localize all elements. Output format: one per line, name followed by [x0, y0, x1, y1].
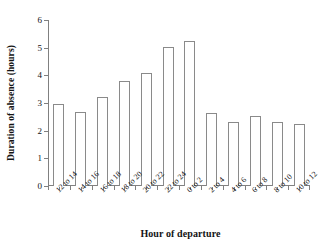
bar-series — [48, 20, 310, 186]
x-axis-title: Hour of departure — [0, 228, 325, 239]
bar — [272, 122, 283, 186]
bar — [53, 104, 64, 186]
y-axis-tick-label: 6 — [28, 15, 42, 25]
bar — [294, 124, 305, 186]
y-axis-tick-mark — [44, 20, 48, 21]
bar — [119, 81, 130, 186]
y-axis-tick-labels: 0123456 — [22, 0, 42, 248]
bar — [141, 73, 152, 186]
plot-area — [48, 20, 310, 186]
bar — [228, 122, 239, 186]
x-axis-tick-labels: 12 to 1414 to 1616 to 1818 to 2020 to 22… — [48, 188, 310, 228]
y-axis-tick-mark — [44, 75, 48, 76]
y-axis-tick-mark — [44, 48, 48, 49]
y-axis-tick-label: 1 — [28, 153, 42, 163]
y-axis-title: Duration of absence (hours) — [6, 45, 16, 161]
y-axis-tick-label: 4 — [28, 70, 42, 80]
y-axis-tick-label: 3 — [28, 98, 42, 108]
bar — [250, 116, 261, 186]
y-axis-tick-label: 2 — [28, 126, 42, 136]
bar — [163, 47, 174, 186]
y-axis-tick-mark — [44, 158, 48, 159]
bar — [206, 113, 217, 186]
y-axis-tick-label: 0 — [28, 181, 42, 191]
bar — [184, 41, 195, 186]
y-axis-tick-label: 5 — [28, 43, 42, 53]
bar-chart-figure: Duration of absence (hours) 0123456 12 t… — [0, 0, 325, 248]
y-axis-tick-mark — [44, 103, 48, 104]
y-axis-tick-mark — [44, 131, 48, 132]
y-axis-title-container: Duration of absence (hours) — [2, 20, 20, 186]
